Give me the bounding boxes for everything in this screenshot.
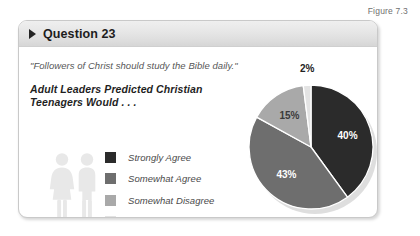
page-title: Question 23 — [43, 27, 116, 41]
figure-label: Figure 7.3 — [368, 6, 408, 16]
legend-swatch-somewhat-disagree — [105, 195, 116, 206]
question-card: Question 23 "Followers of Christ should … — [18, 20, 378, 218]
legend-item: Strongly Disagree — [105, 213, 260, 219]
card-body: "Followers of Christ should study the Bi… — [19, 47, 377, 217]
pie-slice-value-label: 15% — [279, 110, 299, 121]
legend-item: Somewhat Disagree — [105, 191, 260, 209]
card-header: Question 23 — [19, 21, 377, 47]
chart-subtitle-line2: Teenagers Would . . . — [30, 96, 137, 108]
legend-label: Strongly Disagree — [128, 216, 204, 218]
pie-chart: 40%43%15%2% — [243, 53, 378, 218]
pie-slice-value-label: 40% — [338, 130, 358, 141]
pie-slice-value-label: 2% — [300, 63, 315, 74]
legend-label: Somewhat Disagree — [128, 195, 214, 206]
chart-legend: Strongly Agree Somewhat Agree Somewhat D… — [105, 148, 260, 218]
legend-label: Strongly Agree — [128, 152, 191, 163]
legend-label: Somewhat Agree — [128, 173, 201, 184]
chart-subtitle: Adult Leaders Predicted Christian Teenag… — [30, 83, 203, 108]
question-quote: "Followers of Christ should study the Bi… — [30, 60, 238, 71]
legend-item: Strongly Agree — [105, 148, 260, 166]
pie-slice-value-label: 43% — [276, 169, 296, 180]
legend-swatch-strongly-agree — [105, 152, 116, 163]
legend-item: Somewhat Agree — [105, 170, 260, 188]
chart-subtitle-line1: Adult Leaders Predicted Christian — [30, 83, 203, 95]
triangle-right-icon — [29, 29, 36, 39]
legend-swatch-strongly-disagree — [105, 216, 116, 218]
legend-swatch-somewhat-agree — [105, 173, 116, 184]
two-people-icon — [49, 151, 101, 218]
pie-chart-svg: 40%43%15%2% — [243, 53, 378, 218]
